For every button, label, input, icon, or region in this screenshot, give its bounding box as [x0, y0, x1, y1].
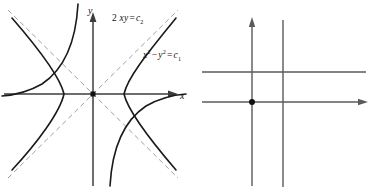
uv-origin-dot [249, 99, 255, 105]
label-x2y2-constant-index: 1 [178, 56, 181, 62]
label-x2-minus-y2-equals-c1: x2−y2=c1 [143, 49, 181, 62]
label-2xy-equals: = [128, 13, 136, 23]
label-2xy-constant-index: 2 [140, 19, 143, 25]
uv-plane-svg [196, 0, 388, 190]
v-axis-arrowhead [249, 17, 255, 27]
y-axis-label: y [88, 6, 92, 16]
hyperbola-2xy-first-quadrant [110, 94, 186, 186]
label-2xy-equals-c2: 2 xy=c2 [112, 14, 144, 25]
u-axis-arrowhead [358, 99, 368, 105]
label-2xy-coefficient: 2 [112, 13, 117, 23]
figure-canvas: 2 xy=c2 x2−y2=c1 y x u=c1 [0, 0, 388, 190]
hyperbola-2xy-third-quadrant [2, 4, 78, 96]
xy-origin-dot [91, 92, 96, 97]
xy-plane-svg [0, 0, 196, 190]
xy-plane-panel: 2 xy=c2 x2−y2=c1 y x [0, 0, 196, 190]
x-axis-label: x [180, 91, 184, 101]
uv-plane-panel: u=c1 v=c2 v u [196, 0, 388, 190]
